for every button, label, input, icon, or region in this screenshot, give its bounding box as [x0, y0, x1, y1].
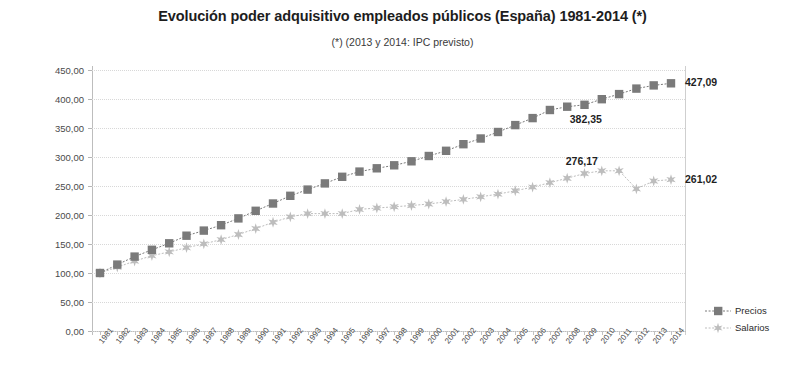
data-point-salarios [666, 174, 675, 185]
y-axis-tick-mark [88, 99, 92, 100]
data-point-salarios [528, 182, 537, 193]
data-point-precios [321, 179, 329, 187]
data-point-precios [425, 152, 433, 160]
y-axis-tick-label: 450,00 [24, 65, 84, 76]
data-point-precios [598, 95, 606, 103]
y-axis-tick-label: 50,00 [24, 297, 84, 308]
data-point-precios [528, 114, 536, 122]
data-point-precios [130, 252, 138, 260]
chart-subtitle: (*) (2013 y 2014: IPC previsto) [0, 36, 805, 48]
data-point-precios [269, 199, 277, 207]
series-layer [92, 70, 685, 331]
data-point-salarios [580, 168, 589, 179]
y-axis-tick-label: 0,00 [24, 326, 84, 337]
y-axis-tick-mark [88, 273, 92, 274]
data-point-precios [286, 192, 294, 200]
data-point-precios [303, 185, 311, 193]
data-point-salarios [165, 246, 174, 257]
data-point-precios [217, 221, 225, 229]
data-point-precios [148, 246, 156, 254]
data-point-precios [494, 128, 502, 136]
data-point-precios [650, 81, 658, 89]
data-point-salarios [199, 239, 208, 250]
data-point-precios [615, 90, 623, 98]
data-point-precios [442, 147, 450, 155]
legend-label: Salarios [735, 322, 769, 333]
y-axis-tick-label: 200,00 [24, 210, 84, 221]
data-point-precios [580, 101, 588, 109]
y-axis-tick-mark [88, 186, 92, 187]
data-label: 261,02 [685, 173, 717, 185]
legend-item-precios[interactable]: Precios [705, 302, 769, 319]
legend-marker-icon [705, 305, 731, 317]
y-axis-tick-mark [88, 128, 92, 129]
plot-right-border [685, 66, 686, 335]
legend-marker-icon [705, 322, 731, 334]
data-point-precios [546, 106, 554, 114]
data-point-precios [407, 157, 415, 165]
data-point-salarios [251, 223, 260, 234]
data-label: 382,35 [570, 113, 602, 125]
data-point-salarios [320, 208, 329, 219]
y-axis-tick-mark [88, 157, 92, 158]
data-point-salarios [511, 185, 520, 196]
legend-label: Precios [735, 305, 767, 316]
chart-title: Evolución poder adquisitivo empleados pú… [0, 8, 805, 24]
data-point-precios [182, 232, 190, 240]
data-point-precios [511, 121, 519, 129]
data-point-salarios [268, 217, 277, 228]
y-axis-tick-label: 350,00 [24, 123, 84, 134]
series-line-precios [100, 83, 671, 273]
data-point-salarios [303, 208, 312, 219]
data-point-salarios [441, 196, 450, 207]
data-point-precios [563, 103, 571, 111]
data-point-precios [234, 214, 242, 222]
chart-legend: PreciosSalarios [705, 302, 769, 336]
series-line-salarios [100, 171, 671, 273]
y-axis-tick-mark [88, 302, 92, 303]
data-point-precios [667, 79, 675, 87]
data-point-salarios [649, 176, 658, 187]
data-label: 427,09 [685, 76, 717, 88]
data-point-salarios [286, 212, 295, 223]
data-point-precios [632, 84, 640, 92]
y-axis-tick-label: 100,00 [24, 268, 84, 279]
chart-container: Evolución poder adquisitivo empleados pú… [0, 0, 805, 384]
data-point-precios [459, 140, 467, 148]
y-axis-tick-mark [88, 215, 92, 216]
data-point-precios [338, 173, 346, 181]
data-point-precios [373, 164, 381, 172]
data-point-precios [252, 207, 260, 215]
data-label: 276,17 [566, 155, 598, 167]
data-point-precios [165, 239, 173, 247]
legend-item-salarios[interactable]: Salarios [705, 319, 769, 336]
data-point-precios [390, 161, 398, 169]
y-axis-tick-label: 250,00 [24, 181, 84, 192]
data-point-salarios [234, 229, 243, 240]
data-point-salarios [563, 173, 572, 184]
data-point-precios [113, 260, 121, 268]
plot-area [92, 70, 685, 331]
y-axis-tick-label: 300,00 [24, 152, 84, 163]
data-point-salarios [338, 208, 347, 219]
data-point-salarios [182, 242, 191, 253]
y-axis-tick-mark [88, 331, 92, 332]
y-axis-tick-mark [88, 70, 92, 71]
y-axis-tick-label: 400,00 [24, 94, 84, 105]
data-point-salarios [216, 234, 225, 245]
data-point-precios [477, 134, 485, 142]
data-point-precios [200, 226, 208, 234]
y-axis-tick-label: 150,00 [24, 239, 84, 250]
data-point-salarios [545, 177, 554, 188]
y-axis-tick-mark [88, 244, 92, 245]
data-point-precios [355, 167, 363, 175]
data-point-precios [96, 269, 104, 277]
